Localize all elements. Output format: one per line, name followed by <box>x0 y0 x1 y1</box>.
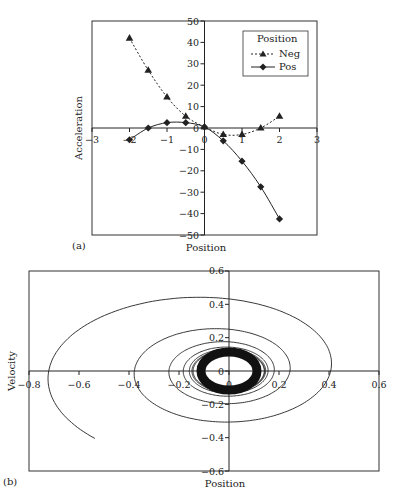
legend-pos: Pos <box>279 61 296 72</box>
chart-b-ytick-label: 0.4 <box>209 299 224 310</box>
chart-b-xtick-label: −0.4 <box>117 379 140 390</box>
diamond-marker-icon <box>276 215 283 222</box>
diamond-marker-icon <box>145 124 152 131</box>
chart-a: 50403020100−10−20−30−40−50−3−2−10123 Pos… <box>72 16 320 254</box>
triangle-marker-icon <box>276 112 284 119</box>
chart-a-xtick-label: −1 <box>160 134 174 145</box>
chart-b-ytick-label: −0.4 <box>201 432 224 443</box>
chart-a-ylabel: Acceleration <box>73 96 84 161</box>
chart-b-xtick-label: 0.4 <box>321 379 336 390</box>
chart-b-xlabel: Position <box>205 478 246 489</box>
chart-a-xtick-label: 2 <box>276 134 282 145</box>
chart-a-xtick-label: 3 <box>314 134 320 145</box>
legend-neg: Neg <box>279 48 301 59</box>
chart-a-ytick-label: 30 <box>187 58 199 69</box>
chart-b-xtick-label: −0.6 <box>67 379 90 390</box>
chart-a-ytick-label: 40 <box>187 37 199 48</box>
triangle-marker-icon <box>257 124 265 131</box>
chart-a-ytick-label: −20 <box>179 165 199 176</box>
chart-b-ylabel: Velocity <box>6 351 17 392</box>
chart-a-xtick-label: 0 <box>201 134 207 145</box>
chart-a-ytick-label: −50 <box>179 230 199 241</box>
chart-a-xlabel: Position <box>186 242 227 253</box>
figure: 50403020100−10−20−30−40−50−3−2−10123 Pos… <box>0 0 393 502</box>
triangle-marker-icon <box>182 112 190 119</box>
triangle-marker-icon <box>126 34 134 41</box>
chart-a-ytick-label: 20 <box>187 80 199 91</box>
chart-a-ytick-label: −30 <box>179 187 199 198</box>
legend-title: Position <box>257 33 298 44</box>
triangle-marker-icon <box>144 66 152 73</box>
chart-b-ytick-label: 0 <box>218 366 224 377</box>
chart-b-xtick-label: 0.6 <box>371 379 386 390</box>
panel-a-label: (a) <box>72 240 86 251</box>
chart-b-trajectory <box>48 297 332 438</box>
chart-a-ytick-label: −10 <box>179 144 199 155</box>
chart-a-legend: Position Neg Pos <box>243 31 308 76</box>
chart-b-ytick-label: 0.6 <box>209 265 224 276</box>
chart-b-ytick-label: −0.2 <box>201 399 224 410</box>
chart-b: 0.60.40.20−0.2−0.4−0.6−0.8−0.6−0.4−0.200… <box>3 265 387 489</box>
diamond-marker-icon <box>163 119 170 126</box>
chart-a-ytick-label: 50 <box>187 16 199 27</box>
diamond-marker-icon <box>182 119 189 126</box>
chart-a-ytick-label: 10 <box>187 101 199 112</box>
chart-a-ytick-label: −40 <box>179 208 199 219</box>
triangle-marker-icon <box>219 130 227 137</box>
chart-b-ytick-label: −0.6 <box>201 466 224 477</box>
panel-b-label: (b) <box>3 476 17 487</box>
chart-a-xtick-label: −3 <box>85 134 99 145</box>
chart-b-xtick-label: −0.8 <box>17 379 40 390</box>
diamond-marker-icon <box>257 183 264 190</box>
